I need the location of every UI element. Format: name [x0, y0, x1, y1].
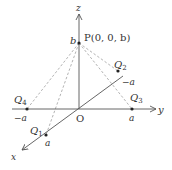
- coordinate-diagram: z y x O b P(0, 0, b) Q2 −a Q3 a Q4 −a Q1…: [0, 0, 172, 170]
- edge-p-q1: [46, 43, 79, 135]
- z-axis-label: z: [75, 3, 81, 13]
- edge-p-q3: [79, 43, 132, 109]
- point-q3-label: Q3: [130, 92, 143, 105]
- q2-name: Q: [114, 59, 122, 70]
- point-q4: [25, 107, 28, 110]
- q1-tick: a: [45, 138, 50, 148]
- q1-sub: 1: [38, 130, 42, 138]
- origin-label: O: [76, 113, 84, 124]
- point-q1: [44, 133, 47, 136]
- point-q2-label: Q2: [114, 59, 127, 72]
- edge-p-q4: [27, 43, 79, 109]
- point-p: [77, 41, 80, 44]
- point-q4-label: Q4: [14, 94, 27, 107]
- q2-tick: −a: [122, 77, 135, 87]
- q3-name: Q: [130, 92, 138, 103]
- q3-tick: a: [129, 113, 134, 123]
- z-tick-b: b: [70, 35, 76, 46]
- q4-name: Q: [14, 94, 22, 105]
- y-axis-label: y: [157, 104, 164, 115]
- x-axis: [22, 76, 123, 150]
- x-axis-label: x: [11, 152, 16, 162]
- point-q1-label: Q1: [30, 125, 43, 138]
- q1-name: Q: [30, 125, 38, 136]
- q3-sub: 3: [138, 97, 142, 105]
- edge-p-q2: [79, 43, 118, 71]
- point-p-label: P(0, 0, b): [84, 32, 130, 43]
- q4-tick: −a: [14, 113, 27, 123]
- point-q3: [130, 107, 133, 110]
- q4-sub: 4: [22, 99, 27, 107]
- q2-sub: 2: [122, 64, 126, 72]
